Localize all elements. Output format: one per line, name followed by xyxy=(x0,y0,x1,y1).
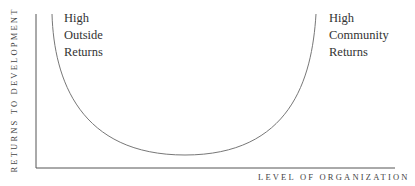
y-axis-title: RETURNS TO DEVELOPMENT xyxy=(9,7,19,172)
left-annotation: High Outside Returns xyxy=(64,10,103,61)
u-curve-diagram: RETURNS TO DEVELOPMENT LEVEL OF ORGANIZA… xyxy=(0,0,415,186)
x-axis-title: LEVEL OF ORGANIZATION xyxy=(258,172,410,182)
right-annotation: High Community Returns xyxy=(329,10,389,61)
right-annotation-line: High xyxy=(329,10,389,27)
right-annotation-line: Returns xyxy=(329,44,389,61)
left-annotation-line: Returns xyxy=(64,44,103,61)
left-annotation-line: High xyxy=(64,10,103,27)
right-annotation-line: Community xyxy=(329,27,389,44)
left-annotation-line: Outside xyxy=(64,27,103,44)
